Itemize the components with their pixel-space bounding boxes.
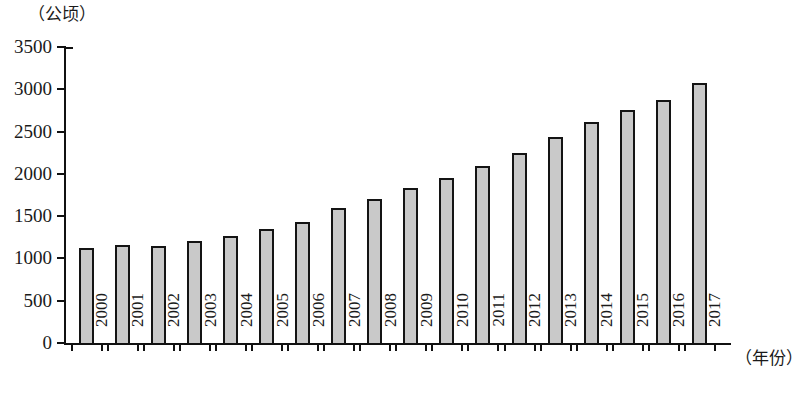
x-axis-tick <box>71 344 73 351</box>
y-axis-tick <box>57 300 66 302</box>
x-axis-tick-label: 2015 <box>635 293 651 353</box>
y-axis-tick-label: 3500 <box>2 37 52 56</box>
y-axis-tick <box>57 215 66 217</box>
x-axis-tick-label: 2007 <box>347 293 363 353</box>
y-axis-tick-label-wrap: 2500 <box>0 122 52 141</box>
y-axis-tick-label: 1500 <box>2 206 52 225</box>
y-axis-tick-label-wrap: 1500 <box>0 206 52 225</box>
y-axis-tick-label: 0 <box>2 333 52 352</box>
y-axis-tick <box>57 173 66 175</box>
x-axis-tick-label: 2002 <box>166 293 182 353</box>
y-axis-tick <box>57 46 66 48</box>
bar <box>187 241 202 343</box>
y-axis-tick <box>57 88 66 90</box>
x-axis-tick-label: 2003 <box>203 293 219 353</box>
x-axis-tick-label: 2000 <box>94 293 110 353</box>
x-axis-tick-label: 2016 <box>671 293 687 353</box>
x-axis-tick-label: 2004 <box>239 293 255 353</box>
x-axis-tick-label: 2010 <box>455 293 471 353</box>
bar <box>223 236 238 343</box>
y-axis-tick-label: 2000 <box>2 164 52 183</box>
y-axis-tick-label: 1000 <box>2 248 52 267</box>
bar <box>331 208 346 343</box>
y-axis-tick-label-wrap: 0 <box>0 333 52 352</box>
x-axis-tick-label: 2001 <box>130 293 146 353</box>
y-axis-tick-label: 500 <box>2 291 52 310</box>
bar <box>259 229 274 343</box>
x-axis-tick-label: 2017 <box>707 293 723 353</box>
x-axis-tick-label: 2013 <box>563 293 579 353</box>
y-axis-tick <box>57 257 66 259</box>
y-axis-tick-label-wrap: 3000 <box>0 79 52 98</box>
x-axis-tick-label: 2008 <box>383 293 399 353</box>
y-axis-tick-label-wrap: 2000 <box>0 164 52 183</box>
y-axis-tick-label: 2500 <box>2 122 52 141</box>
y-axis-tick <box>57 131 66 133</box>
x-axis-tick-label: 2014 <box>599 293 615 353</box>
y-axis-tick-label-wrap: 1000 <box>0 248 52 267</box>
y-axis-tick <box>57 342 66 344</box>
y-axis-tick-label-wrap: 500 <box>0 291 52 310</box>
x-axis-tick-label: 2011 <box>491 293 507 353</box>
bar <box>295 222 310 343</box>
x-axis-tick-label: 2009 <box>419 293 435 353</box>
x-axis-tick-label: 2006 <box>311 293 327 353</box>
x-axis-tick-label: 2005 <box>275 293 291 353</box>
x-axis-tick-label: 2012 <box>527 293 543 353</box>
y-axis-tick-label-wrap: 3500 <box>0 37 52 56</box>
y-axis-tick-label: 3000 <box>2 79 52 98</box>
